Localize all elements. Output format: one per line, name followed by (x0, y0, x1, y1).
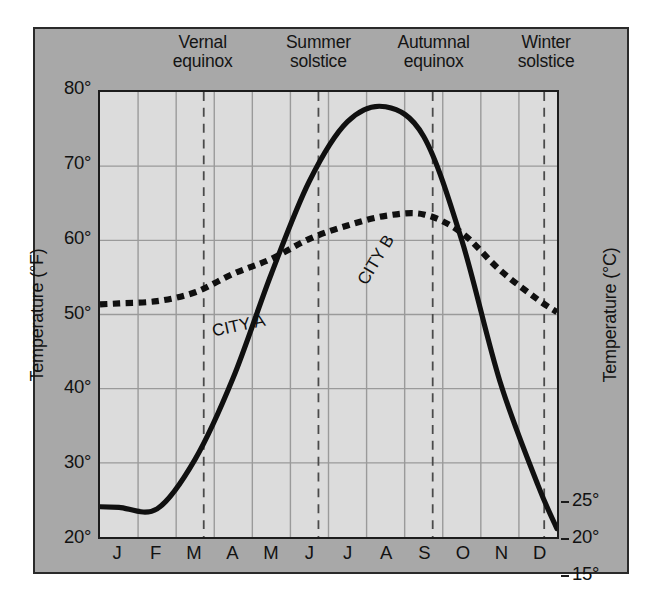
annotation-label-line1: Autumnal (397, 32, 469, 52)
annotation-label-line1: Vernal (178, 32, 226, 52)
chart-figure: Vernal equinox Summer solstice Autumnal … (33, 27, 629, 574)
annotation-label-line1: Summer (286, 32, 351, 52)
y-tick-left-70: 70° (35, 152, 91, 174)
y-tick-right-25: 25° (572, 489, 599, 511)
annotation-label-winter-solstice: Winter solstice (476, 33, 616, 71)
annotation-label-line2: solstice (476, 52, 616, 71)
plot-area: CITY A CITY B (98, 90, 559, 539)
x-tick-0: J (97, 542, 137, 564)
x-tick-4: M (251, 542, 291, 564)
y-tick-left-30: 30° (35, 451, 91, 473)
y-axis-title-right: Temperature (°C) (600, 247, 621, 382)
x-tick-10: N (481, 542, 521, 564)
series-curve-1 (100, 106, 557, 528)
x-tick-9: O (443, 542, 483, 564)
x-tick-2: M (174, 542, 214, 564)
series-curve-0 (100, 213, 557, 312)
y-tick-left-60: 60° (35, 227, 91, 249)
y-tick-right-20: 20° (572, 526, 599, 548)
y-tick-left-80: 80° (35, 77, 91, 99)
x-tick-5: J (289, 542, 329, 564)
x-tick-7: A (366, 542, 406, 564)
y-tick-right-15: 15° (572, 563, 599, 585)
annotation-label-row: Vernal equinox Summer solstice Autumnal … (35, 33, 627, 87)
y-tick-left-20: 20° (35, 526, 91, 548)
y-tick-mark-right-20 (561, 538, 569, 540)
y-tick-mark-right-15 (561, 575, 569, 577)
y-tick-left-40: 40° (35, 376, 91, 398)
x-tick-3: A (213, 542, 253, 564)
x-tick-1: F (136, 542, 176, 564)
x-tick-8: S (405, 542, 445, 564)
x-tick-6: J (328, 542, 368, 564)
y-tick-mark-right-25 (561, 501, 569, 503)
annotation-label-line1: Winter (521, 32, 570, 52)
y-tick-left-50: 50° (35, 302, 91, 324)
data-layer (100, 92, 557, 537)
x-tick-11: D (520, 542, 560, 564)
